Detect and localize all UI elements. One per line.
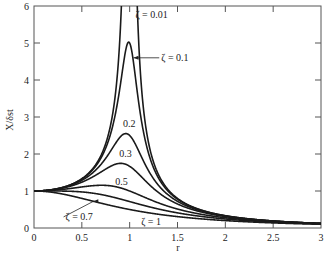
x-tick-label: 0.5 xyxy=(76,232,89,243)
curve-label: ζ = 0.1 xyxy=(161,52,188,64)
curve-zeta-0_1 xyxy=(34,42,321,223)
y-tick-label: 5 xyxy=(24,38,29,49)
x-tick-label: 1 xyxy=(127,232,132,243)
arrowhead-icon xyxy=(93,199,98,203)
y-tick-label: 3 xyxy=(24,112,29,123)
curve-label: 0.5 xyxy=(115,176,128,187)
y-tick-label: 1 xyxy=(24,186,29,197)
x-axis-label: r xyxy=(176,242,180,253)
arrowhead-icon xyxy=(133,56,138,60)
y-tick-label: 6 xyxy=(24,1,29,12)
curves xyxy=(34,0,321,224)
x-tick-label: 2 xyxy=(223,232,228,243)
curve-zeta-0_01 xyxy=(34,0,321,223)
plot-frame xyxy=(34,6,321,228)
y-tick-label: 2 xyxy=(24,149,29,160)
curve-label: ζ = 1 xyxy=(141,216,161,228)
y-tick-label: 4 xyxy=(24,75,29,86)
y-tick-label: 0 xyxy=(24,223,29,234)
curve-label: ζ = 0.01 xyxy=(135,9,167,21)
x-tick-label: 2.5 xyxy=(267,232,280,243)
curve-label: 0.2 xyxy=(123,118,136,129)
axis-ticks: 00.511.522.530123456 xyxy=(24,1,324,243)
curve-label: ζ = 0.7 xyxy=(66,211,93,223)
curve-label: 0.3 xyxy=(119,148,132,159)
y-axis-label: X/δst xyxy=(4,109,15,131)
x-tick-label: 3 xyxy=(319,232,324,243)
response-chart: 00.511.522.530123456 ζ = 0.01ζ = 0.10.20… xyxy=(0,0,332,256)
plot-area xyxy=(34,6,321,228)
x-tick-label: 0 xyxy=(32,232,37,243)
